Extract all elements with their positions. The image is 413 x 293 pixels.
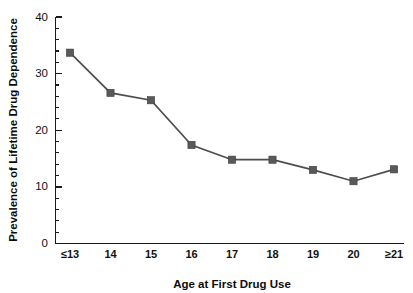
data-point-marker (269, 156, 276, 163)
y-tick-label: 10 (35, 180, 48, 192)
y-tick-label-group: 010203040 (35, 11, 48, 250)
data-point-marker (390, 166, 397, 173)
chart-figure: Prevalence of Lifetime Drug Dependence 0… (0, 0, 413, 293)
x-tick-label: 20 (347, 248, 359, 260)
chart-canvas: Prevalence of Lifetime Drug Dependence 0… (0, 0, 413, 293)
y-tick-label: 20 (35, 124, 48, 136)
data-point-marker (309, 166, 316, 173)
data-point-marker (228, 156, 235, 163)
data-point-group (66, 49, 397, 185)
data-point-marker (147, 97, 154, 104)
x-tick-label-group: ≤1314151617181920≥21 (61, 248, 403, 260)
x-tick-label: 14 (104, 248, 117, 260)
x-tick-label: ≥21 (385, 248, 403, 260)
data-point-marker (188, 141, 195, 148)
x-axis-title: Age at First Drug Use (173, 278, 291, 290)
data-point-marker (66, 49, 73, 56)
x-tick-label: ≤13 (61, 248, 79, 260)
x-tick-label: 19 (307, 248, 319, 260)
y-tick-label: 40 (35, 11, 48, 23)
y-tick-label: 30 (35, 67, 48, 79)
data-point-marker (350, 178, 357, 185)
x-tick-label: 17 (226, 248, 238, 260)
x-tick-label: 18 (266, 248, 278, 260)
y-tick-label: 0 (42, 237, 48, 249)
y-axis-title: Prevalence of Lifetime Drug Dependence (7, 18, 19, 242)
x-tick-label: 15 (145, 248, 157, 260)
data-point-marker (107, 89, 114, 96)
x-tick-label: 16 (185, 248, 197, 260)
